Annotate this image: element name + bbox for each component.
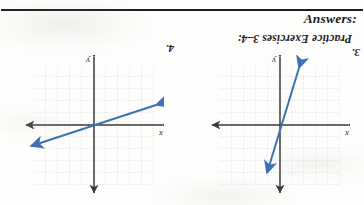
coordinate-plane-4: x y [24,55,164,195]
graph-problem-4: x y [24,55,164,195]
practice-exercises-label: Practice Exercises 3–4: [237,33,352,45]
scanned-page: Answers: [0,0,364,205]
x-axis-label-4: x [159,129,164,139]
problem-number-4: 4. [166,43,174,55]
graph-problem-3: x y [210,55,350,195]
y-axis-label-3: y [272,56,277,66]
x-axis-label-3: x [345,129,350,139]
upside-down-content-block: x y 3. Practice Exercises 3–4: [0,22,364,205]
y-axis-label-4: y [86,56,91,66]
coordinate-plane-3: x y [210,55,350,195]
problem-number-3: 3. [352,47,360,59]
